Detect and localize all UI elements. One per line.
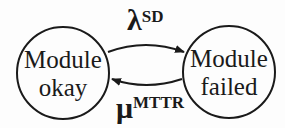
lambda-symbol: λ: [127, 3, 142, 36]
edge-arrow: [108, 45, 184, 52]
node-module-okay: Module okay: [17, 27, 109, 119]
superscript-mttr: MTTR: [133, 93, 185, 112]
node-label-line2: okay: [39, 74, 88, 101]
node-label-line2: failed: [201, 73, 258, 100]
node-module-failed: Module failed: [183, 26, 275, 118]
node-circle: [17, 27, 109, 119]
node-label-line1: Module: [24, 46, 102, 73]
superscript-sd: SD: [142, 7, 164, 26]
mu-symbol: μ: [116, 91, 133, 124]
edge-arrow: [112, 79, 182, 85]
edge-label-lambda: λSD: [127, 3, 163, 36]
edge-okay-to-failed: λSD: [108, 3, 184, 52]
node-circle: [183, 26, 275, 118]
state-diagram: Module okay Module failed λSD μMTTR: [0, 0, 285, 128]
node-label-line1: Module: [190, 45, 268, 72]
edge-failed-to-okay: μMTTR: [112, 79, 185, 124]
edge-label-mu: μMTTR: [116, 91, 185, 124]
